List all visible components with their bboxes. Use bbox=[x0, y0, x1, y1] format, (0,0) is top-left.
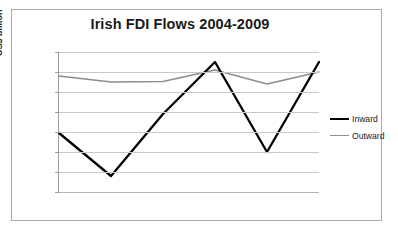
y-tick-mark bbox=[55, 172, 59, 173]
gridline bbox=[59, 172, 319, 173]
legend-item-inward: Inward bbox=[330, 110, 392, 127]
legend-swatch-inward bbox=[330, 118, 349, 120]
legend-label-inward: Inward bbox=[352, 114, 378, 124]
gridline bbox=[59, 92, 319, 93]
gridline bbox=[59, 132, 319, 133]
chart-figure: Irish FDI Flows 2004-2009 US$ billion 30… bbox=[0, 0, 398, 238]
y-tick-mark bbox=[55, 92, 59, 93]
legend-swatch-outward bbox=[330, 135, 349, 136]
gridline bbox=[59, 72, 319, 73]
legend-item-outward: Outward bbox=[330, 127, 392, 144]
gridline bbox=[59, 52, 319, 53]
gridline bbox=[59, 112, 319, 113]
y-tick-mark bbox=[55, 112, 59, 113]
plot-area: 3020100-10-20-30-40200420052006200720082… bbox=[58, 52, 318, 192]
chart-title: Irish FDI Flows 2004-2009 bbox=[40, 16, 320, 32]
legend-label-outward: Outward bbox=[352, 131, 384, 141]
y-tick-mark bbox=[55, 52, 59, 53]
gridline bbox=[59, 152, 319, 153]
y-tick-mark bbox=[55, 72, 59, 73]
chart-legend: Inward Outward bbox=[330, 110, 392, 144]
series-lines bbox=[59, 52, 319, 192]
series-line-inward bbox=[59, 62, 319, 176]
y-axis-title: US$ billion bbox=[0, 9, 4, 56]
gridline bbox=[59, 192, 319, 193]
y-tick-mark bbox=[55, 152, 59, 153]
y-tick-mark bbox=[55, 132, 59, 133]
y-tick-mark bbox=[55, 192, 59, 193]
